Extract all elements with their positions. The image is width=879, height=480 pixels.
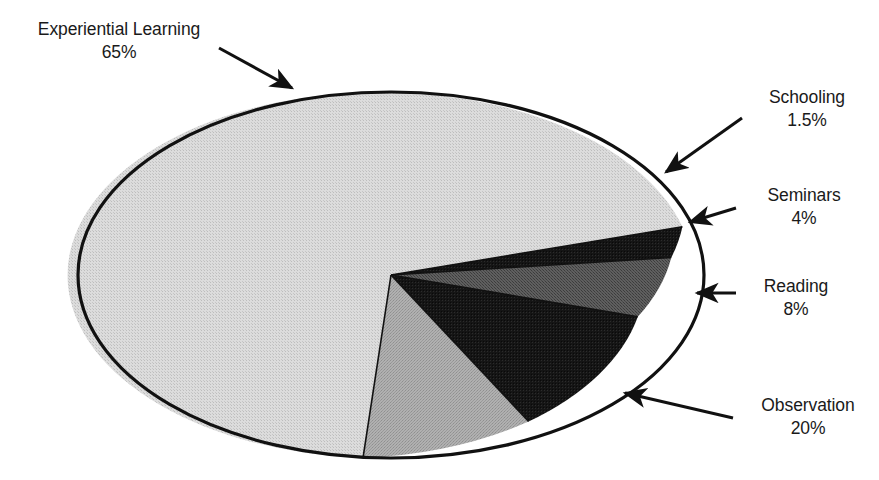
slice-label-observation: Observation 20% <box>740 394 876 440</box>
arrow-observation <box>625 393 733 418</box>
slice-label-name: Experiential Learning <box>14 18 224 41</box>
pie-slices <box>68 92 683 458</box>
arrow-experiential-learning <box>219 48 292 88</box>
slice-label-name: Seminars <box>742 184 866 207</box>
arrow-schooling <box>666 118 742 172</box>
slice-label-value: 4% <box>742 207 866 230</box>
arrow-seminars <box>690 208 736 222</box>
slice-label-value: 1.5% <box>748 109 866 132</box>
slice-label-seminars: Seminars 4% <box>742 184 866 230</box>
slice-label-name: Observation <box>740 394 876 417</box>
pie-chart-figure: Experiential Learning 65% Schooling 1.5%… <box>0 0 879 480</box>
slice-label-name: Reading <box>744 275 848 298</box>
slice-label-value: 65% <box>14 41 224 64</box>
slice-label-value: 8% <box>744 298 848 321</box>
slice-label-experiential-learning: Experiential Learning 65% <box>14 18 224 64</box>
slice-label-reading: Reading 8% <box>744 275 848 321</box>
slice-label-schooling: Schooling 1.5% <box>748 86 866 132</box>
slice-label-name: Schooling <box>748 86 866 109</box>
slice-label-value: 20% <box>740 417 876 440</box>
